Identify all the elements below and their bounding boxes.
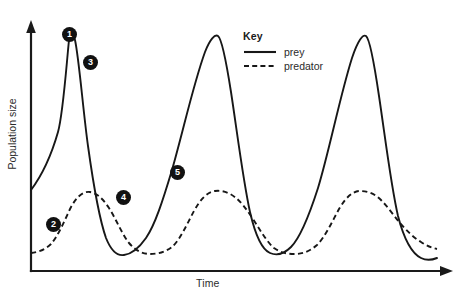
x-axis-arrowhead xyxy=(440,266,453,276)
callout-marker-5: 5 xyxy=(170,165,185,180)
y-axis-arrowhead xyxy=(26,20,36,33)
legend-title: Key xyxy=(243,30,363,42)
predator-series-line xyxy=(31,191,437,254)
population-graph-figure: Population size Time Key prey predator 1… xyxy=(0,0,469,298)
chart-legend: Key prey predator xyxy=(243,30,363,73)
y-axis-label-wrapper: Population size xyxy=(0,128,26,144)
callout-marker-4: 4 xyxy=(116,190,131,205)
legend-swatch-dashed-line xyxy=(243,61,277,71)
legend-swatch-solid-line xyxy=(243,47,277,57)
legend-entry-predator: predator xyxy=(243,59,363,72)
callout-marker-1: 1 xyxy=(62,27,77,42)
legend-label-prey: prey xyxy=(284,46,304,58)
legend-label-predator: predator xyxy=(284,60,323,72)
callout-marker-3: 3 xyxy=(83,55,98,70)
x-axis-label: Time xyxy=(196,277,220,289)
legend-entry-prey: prey xyxy=(243,45,363,58)
callout-marker-2: 2 xyxy=(46,217,61,232)
y-axis-label: Population size xyxy=(6,84,18,184)
chart-canvas xyxy=(0,0,469,298)
